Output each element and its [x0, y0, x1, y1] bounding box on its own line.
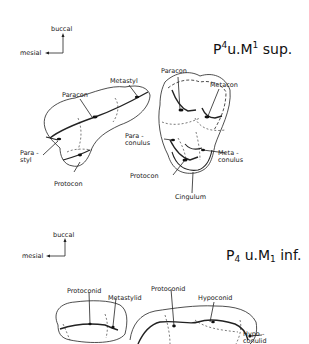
label-parastyl-line2: styl [20, 157, 32, 164]
label-metacon: Metacon [210, 82, 238, 89]
title-part: u.M [240, 247, 270, 263]
label-paracon-m1: Paracon [161, 68, 187, 75]
orientation-buccal-label-lower: buccal [53, 232, 74, 239]
label-paracon-p4: Paracon [62, 92, 88, 99]
title-part: inf. [276, 247, 302, 263]
label-metastylid: Metastylid [108, 295, 142, 302]
p4-lower-outline [56, 301, 127, 343]
label-protoconid-p4: Protoconid [67, 288, 101, 295]
orientation-arrow-upper [47, 35, 63, 53]
p4-upper-outline [44, 86, 150, 166]
upper-title: P4u.M1 sup. [213, 40, 292, 57]
label-paraconulus-line2: conulus [125, 140, 150, 147]
label-protocon-p4: Protocon [54, 181, 83, 188]
title-part: u.M [227, 41, 252, 57]
orientation-buccal-label-upper: buccal [51, 26, 72, 33]
label-cingulum: Cingulum [175, 194, 206, 201]
lower-title: P4 u.M1 inf. [226, 247, 301, 264]
label-metaconulus-line2: conulus [218, 157, 243, 164]
label-protoconid-m1: Protoconid [151, 286, 185, 293]
orientation-mesial-label-upper: mesial [20, 50, 41, 57]
orientation-mesial-label-lower: mesial [22, 253, 43, 260]
label-hypoconulid-line2: conulid [243, 338, 267, 344]
label-protocon-m1: Protocon [130, 173, 159, 180]
label-hypoconid: Hypoconid [198, 295, 232, 302]
label-metastyl: Metastyl [110, 78, 138, 85]
title-part: sup. [258, 41, 292, 57]
